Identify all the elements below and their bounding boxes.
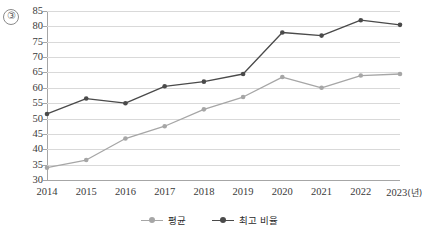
y-axis-tick-mark	[43, 103, 47, 104]
x-axis-tick-label: 2016	[115, 186, 136, 197]
y-axis-tick-mark	[43, 11, 47, 12]
data-point	[162, 124, 167, 129]
y-axis-tick-label: 70	[17, 52, 43, 62]
x-axis-tick-label: 2019	[233, 186, 254, 197]
y-axis-tick-label: 45	[17, 129, 43, 139]
data-point	[45, 112, 50, 117]
y-axis-tick-label: 85	[17, 6, 43, 16]
data-point	[202, 79, 207, 84]
x-axis-tick-label: 2014	[37, 186, 58, 197]
y-axis-tick-mark	[43, 26, 47, 27]
data-point	[202, 107, 207, 112]
x-axis-tick-labels: 2014201520162017201820192020202120222023…	[47, 186, 400, 202]
legend-item-average[interactable]: 평균	[141, 213, 186, 227]
y-axis-tick-labels: 858075706560555045403530	[14, 11, 43, 180]
legend-swatch-icon	[212, 215, 234, 225]
y-axis-tick-label: 80	[17, 21, 43, 31]
data-point	[241, 95, 246, 100]
y-axis-tick-label: 65	[17, 67, 43, 77]
data-point	[241, 72, 246, 77]
data-point	[398, 23, 403, 28]
y-axis-tick-label: 75	[17, 37, 43, 47]
data-point	[280, 30, 285, 35]
y-axis-tick-mark	[43, 42, 47, 43]
y-axis-tick-mark	[43, 119, 47, 120]
y-axis-tick-label: 55	[17, 98, 43, 108]
y-axis-tick-mark	[43, 72, 47, 73]
y-axis-tick-mark	[43, 134, 47, 135]
legend-swatch-icon	[141, 215, 163, 225]
series-line-average	[47, 74, 400, 168]
x-axis-tick-label: 2015	[76, 186, 97, 197]
y-axis-tick-label: 50	[17, 114, 43, 124]
gridline	[47, 180, 400, 181]
data-point	[123, 101, 128, 106]
x-axis-tick-label: 2018	[193, 186, 214, 197]
y-axis-tick-label: 30	[17, 175, 43, 185]
data-point	[162, 84, 167, 89]
data-point	[84, 96, 89, 101]
data-point	[319, 33, 324, 38]
data-point	[358, 18, 363, 23]
legend-label: 평균	[168, 213, 186, 227]
chart-series-layer	[47, 11, 400, 180]
y-axis-tick-mark	[43, 149, 47, 150]
x-axis-tick-label: 2017	[154, 186, 175, 197]
y-axis-tick-mark	[43, 88, 47, 89]
data-point	[123, 136, 128, 141]
y-axis-tick-mark	[43, 165, 47, 166]
x-axis-tick-label: 2021	[311, 186, 332, 197]
y-axis-tick-label: 35	[17, 160, 43, 170]
series-line-highest	[47, 20, 400, 114]
chart-legend: 평균최고 비율	[0, 210, 419, 230]
legend-item-highest[interactable]: 최고 비율	[212, 213, 278, 227]
y-axis-tick-label: 60	[17, 83, 43, 93]
y-axis-tick-mark	[43, 180, 47, 181]
data-point	[280, 75, 285, 80]
x-axis-tick-label: 2023(년)	[386, 186, 422, 199]
data-point	[319, 86, 324, 91]
y-axis-tick-mark	[43, 57, 47, 58]
y-axis-tick-label: 40	[17, 144, 43, 154]
x-axis-tick-label: 2020	[272, 186, 293, 197]
legend-label: 최고 비율	[239, 213, 278, 227]
x-axis-unit-label: (년)	[407, 188, 422, 198]
data-point	[358, 73, 363, 78]
data-point	[45, 165, 50, 170]
data-point	[398, 72, 403, 77]
x-axis-tick-label: 2022	[350, 186, 371, 197]
data-point	[84, 158, 89, 163]
